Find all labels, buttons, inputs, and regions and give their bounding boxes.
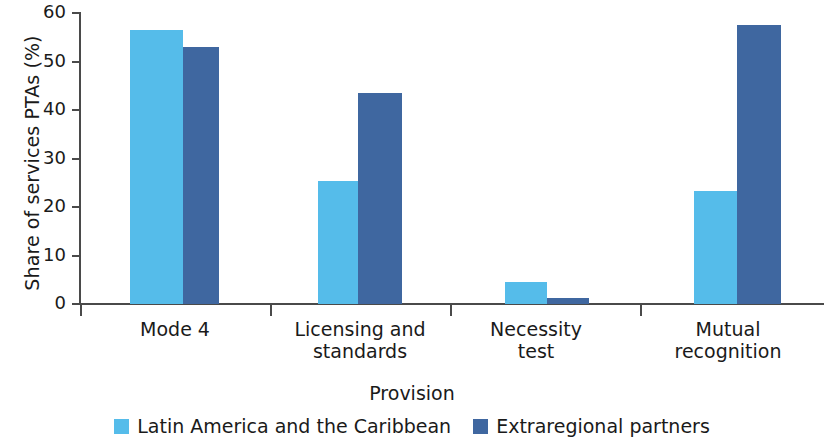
bar bbox=[183, 47, 219, 304]
x-category-label-line: Mutual bbox=[623, 318, 824, 340]
legend-swatch-icon bbox=[114, 419, 129, 434]
y-tick-label: 40 bbox=[24, 100, 66, 118]
bar-chart: Share of services PTAs (%) 0102030405060… bbox=[0, 0, 824, 447]
y-tick-label: 60 bbox=[24, 3, 66, 21]
x-category-label: Mode 4 bbox=[70, 318, 280, 340]
x-category-label: Necessitytest bbox=[431, 318, 641, 362]
legend-label: Latin America and the Caribbean bbox=[137, 415, 451, 437]
legend-swatch-icon bbox=[473, 419, 488, 434]
y-tick-label: 20 bbox=[24, 197, 66, 215]
y-tick-label: 50 bbox=[24, 52, 66, 70]
x-axis-title: Provision bbox=[0, 382, 824, 404]
bar bbox=[505, 282, 547, 304]
bar-group bbox=[318, 13, 402, 304]
bar bbox=[737, 25, 781, 304]
plot-area bbox=[81, 13, 823, 304]
x-tick-mark bbox=[640, 305, 642, 316]
x-tick-mark bbox=[450, 305, 452, 316]
x-tick-mark bbox=[80, 305, 82, 316]
y-tick-label: 0 bbox=[24, 294, 66, 312]
bar-group bbox=[130, 13, 219, 304]
x-category-label-line: Mode 4 bbox=[70, 318, 280, 340]
x-tick-mark bbox=[270, 305, 272, 316]
bar bbox=[358, 93, 402, 304]
bar bbox=[547, 298, 589, 304]
bar bbox=[130, 30, 183, 305]
x-category-label-line: Necessity bbox=[431, 318, 641, 340]
bar bbox=[318, 181, 358, 304]
bar-group bbox=[505, 13, 589, 304]
legend-label: Extraregional partners bbox=[496, 415, 710, 437]
legend-item-latin-america: Latin America and the Caribbean bbox=[114, 415, 451, 437]
x-category-label-line: test bbox=[431, 340, 641, 362]
bar-group bbox=[694, 13, 781, 304]
chart-legend: Latin America and the Caribbean Extrareg… bbox=[0, 415, 824, 437]
x-category-label-line: recognition bbox=[623, 340, 824, 362]
y-tick-label: 30 bbox=[24, 149, 66, 167]
bar bbox=[694, 191, 737, 304]
x-category-label: Mutualrecognition bbox=[623, 318, 824, 362]
legend-item-extraregional-partners: Extraregional partners bbox=[473, 415, 710, 437]
y-tick-label: 10 bbox=[24, 246, 66, 264]
